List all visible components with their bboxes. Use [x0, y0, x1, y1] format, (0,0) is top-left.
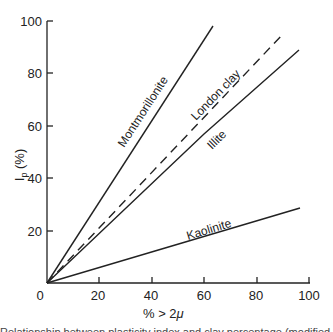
london-clay-line	[47, 34, 283, 283]
x-axis-title: % > 2μ	[143, 306, 184, 321]
x-tick-label: 0	[36, 288, 43, 303]
y-tick-label: 100	[20, 14, 42, 29]
illite-line	[47, 50, 299, 283]
y-tick-labels: 100 80 60 40 20	[20, 14, 42, 239]
x-tick-label: 20	[91, 288, 105, 303]
plasticity-chart: 100 80 60 40 20 0 20 40 60 80 100 % > 2μ…	[0, 0, 333, 332]
x-tick-label: 60	[197, 288, 211, 303]
figure-caption: Relationship between plasticity index an…	[0, 326, 333, 332]
london-clay-label: London clay	[188, 67, 243, 123]
x-tick-label: 100	[298, 288, 320, 303]
x-tick-labels: 0 20 40 60 80 100	[36, 288, 319, 303]
x-tick-label: 80	[249, 288, 263, 303]
y-tick-label: 80	[28, 66, 42, 81]
y-tick-label: 40	[28, 171, 42, 186]
y-tick-label: 60	[28, 119, 42, 134]
series-lines	[47, 26, 300, 283]
kaolinite-label: Kaolinite	[185, 216, 233, 243]
kaolinite-line	[47, 208, 300, 283]
y-tick-label: 20	[28, 224, 42, 239]
montmorillonite-line	[47, 26, 213, 283]
y-axis-title: Ip (%)	[12, 149, 29, 181]
x-tick-label: 40	[144, 288, 158, 303]
montmorillonite-label: Montmorillonite	[115, 73, 171, 149]
